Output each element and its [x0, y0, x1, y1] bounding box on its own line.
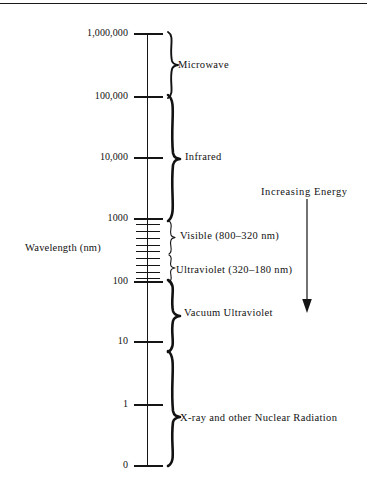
axis-tick-major	[134, 404, 163, 406]
axis-tick-label-10: 10	[20, 336, 128, 346]
axis-tick-minor	[136, 231, 160, 232]
axis-tick-minor	[136, 265, 160, 266]
brace-vacuum-ultraviolet	[166, 279, 184, 353]
wavelength-axis-line	[147, 33, 148, 465]
band-label-visible: Visible (800–320 nm)	[180, 230, 279, 241]
band-label-xray-nuclear: X-ray and other Nuclear Radiation	[180, 412, 337, 423]
band-label-infrared: Infrared	[185, 151, 222, 162]
axis-tick-major	[134, 157, 163, 159]
axis-tick-label-10000: 10,000	[20, 152, 128, 162]
axis-tick-major	[134, 33, 163, 35]
axis-tick-minor	[136, 251, 160, 252]
axis-tick-major	[134, 465, 163, 467]
axis-tick-label-0: 0	[20, 460, 128, 470]
axis-tick-minor	[136, 278, 160, 279]
brace-visible	[167, 220, 179, 256]
increasing-energy-arrow-icon	[299, 199, 317, 317]
brace-infrared	[166, 94, 184, 222]
axis-caption-wavelength: Wavelength (nm)	[25, 242, 101, 253]
axis-tick-major	[134, 96, 163, 98]
axis-tick-major	[134, 281, 163, 283]
increasing-energy-label: Increasing Energy	[261, 186, 348, 197]
axis-tick-minor	[136, 258, 160, 259]
axis-tick-label-1000: 1000	[20, 213, 128, 223]
band-label-vacuum-ultraviolet: Vacuum Ultraviolet	[184, 307, 273, 318]
axis-tick-minor	[136, 238, 160, 239]
axis-tick-label-1: 1	[20, 399, 128, 409]
axis-tick-label-1000000: 1,000,000	[20, 28, 128, 38]
axis-tick-minor	[136, 224, 160, 225]
axis-tick-label-100000: 100,000	[20, 91, 128, 101]
axis-tick-minor	[136, 245, 160, 246]
axis-tick-label-100: 100	[20, 276, 128, 286]
axis-tick-minor	[136, 272, 160, 273]
axis-tick-major	[134, 341, 163, 343]
brace-xray-nuclear	[166, 350, 184, 468]
axis-tick-major	[134, 218, 163, 220]
top-divider-rule	[0, 3, 367, 4]
spectrum-figure: 1,000,000 100,000 10,000 1000 100 10 1 0…	[0, 0, 367, 495]
band-label-ultraviolet: Ultraviolet (320–180 nm)	[176, 264, 292, 275]
band-label-microwave: Microwave	[178, 59, 229, 70]
